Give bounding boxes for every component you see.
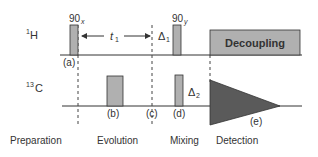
h-channel-label: H — [30, 29, 38, 41]
t1-sub: 1 — [115, 36, 119, 43]
marker-d: (d) — [173, 108, 185, 119]
c-channel-label: C — [35, 82, 43, 94]
pulse-90y-sub: y — [183, 18, 188, 26]
pulse-90y-label: 90 — [172, 13, 184, 24]
delta1-sub: 1 — [166, 36, 170, 43]
delta2-label: Δ — [188, 86, 196, 98]
pulse-90x — [70, 25, 78, 55]
period-preparation: Preparation — [10, 135, 62, 146]
delta1-label: Δ — [158, 30, 166, 42]
decoupling-label: Decoupling — [225, 37, 285, 49]
c-pulse-180 — [107, 76, 123, 106]
delta2-sub: 2 — [196, 92, 200, 99]
pulse-sequence-diagram: 1 H 13 C 90 x t 1 Δ 1 90 y Decoupling Δ … — [0, 0, 318, 157]
period-detection: Detection — [216, 135, 258, 146]
marker-b: (b) — [107, 108, 119, 119]
pulse-90x-label: 90 — [69, 13, 81, 24]
pulse-90y — [173, 25, 181, 55]
c-pulse-90 — [175, 75, 183, 106]
fid-signal — [210, 80, 280, 125]
pulse-90x-sub: x — [80, 18, 85, 25]
period-mixing: Mixing — [170, 135, 199, 146]
t1-arrow-left-head — [81, 33, 87, 39]
c-channel-label-sup: 13 — [26, 81, 34, 88]
t1-label: t — [110, 30, 114, 42]
marker-a: (a) — [63, 57, 75, 68]
marker-c: (c) — [146, 108, 158, 119]
t1-arrow-right-head — [145, 33, 151, 39]
marker-e: (e) — [250, 116, 262, 127]
period-evolution: Evolution — [97, 135, 138, 146]
